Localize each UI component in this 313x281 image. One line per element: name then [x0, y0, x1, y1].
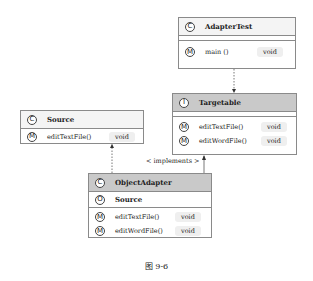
method-name: main () — [205, 48, 228, 56]
method-name: editTextFile() — [199, 123, 243, 131]
method-row: M main () void — [179, 41, 295, 63]
method-icon: M — [179, 136, 189, 146]
method-row: M editTextFile() void — [21, 129, 143, 144]
method-icon: M — [95, 212, 105, 222]
method-row: M editTextFile() void — [89, 210, 211, 224]
class-name: AdapterTest — [205, 22, 252, 31]
method-row: M editTextFile() void — [173, 120, 296, 134]
method-icon: M — [179, 122, 189, 132]
class-header: C ObjectAdapter — [89, 174, 211, 192]
class-name: ObjectAdapter — [115, 178, 172, 187]
method-row: M editWordFile() void — [89, 224, 211, 238]
class-icon: C — [95, 178, 105, 188]
method-icon: M — [27, 132, 37, 142]
class-icon: C — [185, 22, 195, 32]
interface-icon: I — [179, 98, 189, 108]
method-row: M editWordFile() void — [173, 134, 296, 148]
interface-targetable: I Targetable M editTextFile() void M edi… — [172, 93, 297, 155]
class-adapter-test: C AdapterTest M main () void — [178, 17, 296, 69]
class-header: C Source — [21, 111, 143, 129]
method-type: void — [175, 226, 201, 236]
class-name: Source — [47, 115, 74, 124]
method-name: editTextFile() — [115, 213, 159, 221]
fields-section — [173, 112, 296, 117]
method-name: editTextFile() — [47, 133, 91, 141]
method-icon: M — [185, 47, 195, 57]
implements-label: < implements > — [146, 157, 200, 165]
class-object-adapter: C ObjectAdapter O Source M editTextFile(… — [88, 173, 212, 238]
class-header: I Targetable — [173, 94, 296, 112]
field-name: Source — [115, 195, 142, 204]
figure-caption: 图 9-6 — [0, 260, 313, 271]
method-icon: M — [95, 226, 105, 236]
method-type: void — [257, 47, 283, 57]
method-name: editWordFile() — [199, 137, 247, 145]
class-source: C Source M editTextFile() void — [20, 110, 144, 144]
method-type: void — [109, 132, 135, 142]
class-icon: C — [27, 115, 37, 125]
class-name: Targetable — [199, 98, 241, 107]
method-type: void — [261, 136, 287, 146]
field-row: O Source — [89, 192, 211, 208]
method-name: editWordFile() — [115, 227, 163, 235]
method-type: void — [175, 212, 201, 222]
field-icon: O — [95, 195, 105, 205]
method-type: void — [261, 122, 287, 132]
class-header: C AdapterTest — [179, 18, 295, 36]
